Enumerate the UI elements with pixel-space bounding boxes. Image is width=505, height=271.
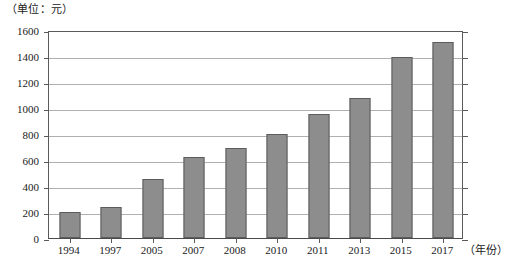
bar-slot bbox=[91, 32, 133, 238]
bar bbox=[433, 42, 454, 238]
x-axis-tick bbox=[194, 238, 195, 243]
x-axis-tick bbox=[402, 238, 403, 243]
bar bbox=[308, 114, 329, 238]
y-axis-label: 1200 bbox=[0, 78, 39, 89]
unit-caption: （单位：元） bbox=[6, 2, 73, 16]
y-axis-label: 0 bbox=[0, 234, 39, 245]
y-axis-label: 1000 bbox=[0, 104, 39, 115]
x-axis-tick bbox=[236, 238, 237, 243]
x-axis-tick bbox=[153, 238, 154, 243]
bar bbox=[350, 98, 371, 238]
x-axis-label: 2005 bbox=[141, 244, 163, 257]
bar-slot bbox=[381, 32, 423, 238]
y-axis-label: 200 bbox=[0, 208, 39, 219]
x-axis-label: 2015 bbox=[390, 244, 412, 257]
bar bbox=[184, 157, 205, 238]
y-axis-tick-right bbox=[462, 240, 468, 241]
x-axis-label: 2007 bbox=[182, 244, 204, 257]
x-axis-label: 2010 bbox=[265, 244, 287, 257]
x-axis-tick bbox=[319, 238, 320, 243]
bar-slot bbox=[49, 32, 91, 238]
y-axis-label: 800 bbox=[0, 130, 39, 141]
bar-slot bbox=[423, 32, 465, 238]
x-axis-label: 2017 bbox=[431, 244, 453, 257]
y-axis-tick bbox=[44, 240, 49, 241]
bar bbox=[267, 134, 288, 238]
x-axis-label: 1997 bbox=[99, 244, 121, 257]
y-axis-label: 600 bbox=[0, 156, 39, 167]
bar-slot bbox=[298, 32, 340, 238]
bar bbox=[101, 207, 122, 238]
x-axis-tick bbox=[443, 238, 444, 243]
x-axis-label: 2011 bbox=[307, 244, 329, 257]
y-axis-label: 400 bbox=[0, 182, 39, 193]
bar bbox=[391, 57, 412, 238]
bar-slot bbox=[174, 32, 216, 238]
x-axis-title: （年份） bbox=[464, 244, 505, 257]
plot-area bbox=[48, 31, 463, 239]
x-axis-tick bbox=[111, 238, 112, 243]
x-axis-label: 2013 bbox=[348, 244, 370, 257]
bar bbox=[142, 179, 163, 238]
bar bbox=[59, 212, 80, 238]
bar bbox=[225, 148, 246, 238]
x-axis-label: 1994 bbox=[58, 244, 80, 257]
x-axis-label: 2008 bbox=[224, 244, 246, 257]
bar-slot bbox=[257, 32, 299, 238]
bar-slot bbox=[215, 32, 257, 238]
x-axis-tick bbox=[277, 238, 278, 243]
y-axis-label: 1400 bbox=[0, 52, 39, 63]
x-axis-tick bbox=[360, 238, 361, 243]
bar-slot bbox=[340, 32, 382, 238]
bars-layer bbox=[49, 32, 462, 238]
x-axis-tick bbox=[70, 238, 71, 243]
y-axis-label: 1600 bbox=[0, 26, 39, 37]
bar-slot bbox=[132, 32, 174, 238]
